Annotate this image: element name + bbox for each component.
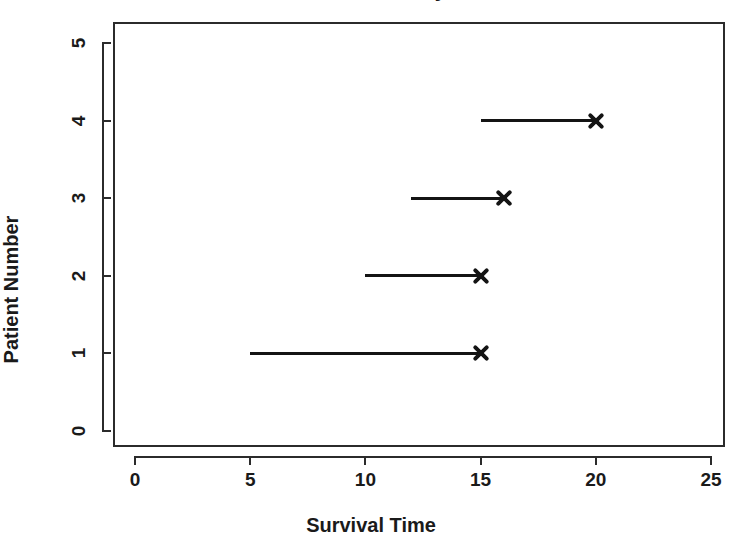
x-tick-10	[364, 456, 366, 465]
x-tick-label-10: 10	[355, 469, 376, 491]
x-tick-15	[480, 456, 482, 465]
y-axis-label: Patient Number	[0, 215, 23, 363]
survival-segment-patient-4	[481, 119, 596, 122]
y-tick-5	[102, 42, 111, 44]
x-tick-5	[249, 456, 251, 465]
x-tick-25	[710, 456, 712, 465]
y-tick-label-3: 3	[68, 193, 90, 204]
y-tick-label-0: 0	[68, 426, 90, 437]
y-tick-label-2: 2	[68, 271, 90, 282]
x-tick-label-20: 20	[585, 469, 606, 491]
survival-segment-patient-2	[365, 274, 480, 277]
y-axis-line	[102, 43, 104, 431]
y-tick-label-4: 4	[68, 115, 90, 126]
y-tick-2	[102, 275, 111, 277]
chart-title: Survival Study	[0, 0, 742, 2]
x-tick-label-25: 25	[700, 469, 721, 491]
plot-area-frame	[113, 22, 725, 447]
x-tick-20	[595, 456, 597, 465]
x-axis-line	[135, 456, 711, 458]
x-tick-label-0: 0	[130, 469, 141, 491]
survival-segment-patient-3	[411, 197, 503, 200]
y-tick-label-1: 1	[68, 348, 90, 359]
y-tick-4	[102, 120, 111, 122]
y-tick-0	[102, 430, 111, 432]
chart-screenshot: Survival Study 0510152025 012345 Surviva…	[0, 0, 742, 555]
x-tick-0	[134, 456, 136, 465]
x-tick-label-15: 15	[470, 469, 491, 491]
y-tick-3	[102, 197, 111, 199]
y-tick-label-5: 5	[68, 38, 90, 49]
survival-segment-patient-1	[250, 352, 480, 355]
x-tick-label-5: 5	[245, 469, 256, 491]
y-tick-1	[102, 352, 111, 354]
x-axis-label: Survival Time	[0, 514, 742, 537]
